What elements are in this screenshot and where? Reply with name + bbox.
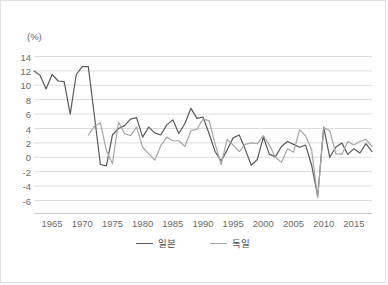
x-tick-label: 2010	[313, 218, 334, 229]
x-tick-label: 2015	[343, 218, 364, 229]
x-tick-label: 1985	[162, 218, 183, 229]
x-tick-label: 2005	[283, 218, 304, 229]
chart-legend: 일본 독일	[1, 239, 385, 249]
legend-swatch-japan	[136, 243, 153, 244]
x-tick-label: 1965	[42, 218, 63, 229]
x-tick-label: 1975	[102, 218, 123, 229]
legend-item-japan: 일본	[136, 239, 176, 249]
x-tick-label: 1970	[72, 218, 93, 229]
legend-swatch-germany	[210, 243, 227, 244]
x-tick-label: 2000	[253, 218, 274, 229]
x-tick-label: 1990	[192, 218, 213, 229]
chart-container: (%) 14121086420-2-4-6 196519701975198019…	[0, 0, 386, 283]
legend-item-germany: 독일	[210, 239, 250, 249]
legend-label-japan: 일본	[158, 239, 176, 249]
x-tick-label: 1980	[132, 218, 153, 229]
x-tick-label: 1995	[223, 218, 244, 229]
legend-label-germany: 독일	[232, 239, 250, 249]
